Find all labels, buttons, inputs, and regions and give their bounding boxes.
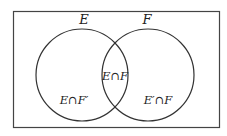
set-f-label: F: [141, 12, 152, 27]
venn-diagram: E F E∩F E∩F′ E′∩F: [0, 0, 227, 136]
region-f-only: E′∩F: [143, 93, 174, 107]
region-e-and-f: E∩F: [101, 69, 129, 83]
set-e-label: E: [78, 12, 89, 27]
region-e-only: E∩F′: [59, 93, 89, 107]
